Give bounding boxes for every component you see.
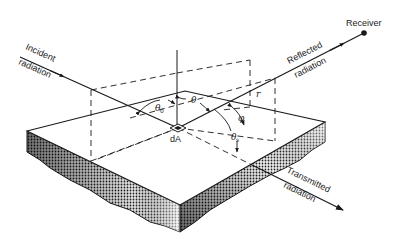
label-r: r	[256, 89, 261, 99]
label-dA: dA	[170, 134, 181, 144]
label-theta0-sub: 0	[160, 107, 164, 114]
label-phi: φ	[238, 113, 245, 123]
receiver-point	[361, 30, 367, 36]
slab	[27, 91, 325, 232]
slab-top-face	[27, 91, 325, 205]
label-theta-s-sub: s	[236, 136, 239, 143]
reflected-arrow	[330, 43, 344, 50]
radiation-diagram: Incident radiation Reflected radiation R…	[0, 0, 400, 251]
label-theta: θ	[191, 95, 197, 105]
label-receiver: Receiver	[346, 18, 382, 28]
